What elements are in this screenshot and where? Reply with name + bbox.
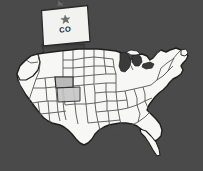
top-edge-marker (57, 0, 64, 6)
screenshot-canvas: CO (0, 0, 203, 171)
callout-state-abbreviation: CO (59, 24, 72, 34)
highlighted-state-colorado (55, 77, 73, 88)
usa-map-body (17, 48, 188, 156)
state-callout-box[interactable]: CO (42, 6, 91, 47)
highlighted-state-projection (57, 87, 80, 102)
map-graphic: CO (0, 0, 203, 171)
usa-outline (17, 48, 188, 145)
